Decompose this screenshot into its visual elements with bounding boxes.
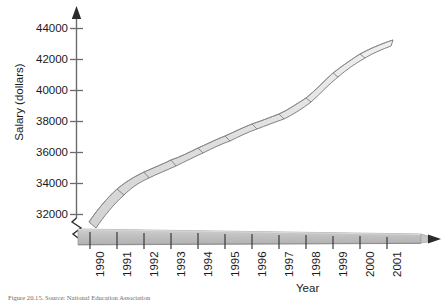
x-axis xyxy=(78,229,441,249)
plot-area xyxy=(0,0,443,302)
x-axis-slab xyxy=(78,229,421,245)
arrow-up-icon xyxy=(72,6,81,19)
ribbon-body xyxy=(89,40,393,228)
data-ribbon xyxy=(89,40,393,228)
x-axis-slab-cap xyxy=(421,234,428,243)
chart-figure: Salary (dollars) 44000 42000 40000 38000… xyxy=(0,0,443,302)
arrow-right-icon xyxy=(428,235,441,244)
y-axis xyxy=(70,6,83,238)
